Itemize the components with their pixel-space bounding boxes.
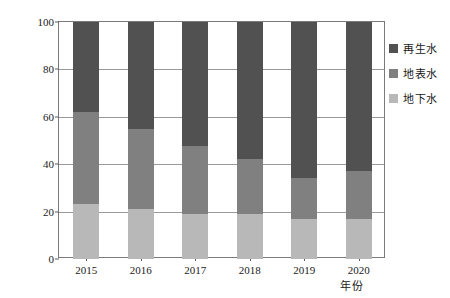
bar-series-container <box>59 22 384 257</box>
legend-item-地表水[interactable]: 地表水 <box>389 65 438 81</box>
bar-segment-再生水 <box>128 22 154 129</box>
legend-item-地下水[interactable]: 地下水 <box>389 90 438 106</box>
y-tick-label: 40 <box>43 158 54 170</box>
y-tick-label: 80 <box>43 63 54 75</box>
y-tick-label: 60 <box>43 111 54 123</box>
bar-segment-地表水 <box>73 112 99 204</box>
y-tick-label: 0 <box>49 253 55 265</box>
bar-segment-地表水 <box>237 159 263 214</box>
y-tick-label: 20 <box>43 206 54 218</box>
y-tick-label: 100 <box>38 16 55 28</box>
bar-segment-再生水 <box>73 22 99 112</box>
bar-stack-2020 <box>346 22 372 257</box>
bar-segment-地表水 <box>291 178 317 218</box>
bar-segment-地下水 <box>237 214 263 259</box>
bar-segment-地下水 <box>182 214 208 259</box>
legend-label: 地下水 <box>403 90 438 106</box>
bar-segment-地下水 <box>291 219 317 259</box>
bar-segment-地表水 <box>182 146 208 214</box>
y-tick-mark <box>55 259 59 260</box>
bar-stack-2015 <box>73 22 99 257</box>
x-tick-label-2020: 2020 <box>348 264 370 276</box>
legend-swatch-icon <box>389 94 398 103</box>
bar-segment-地下水 <box>73 204 99 259</box>
legend-label: 再生水 <box>403 40 438 56</box>
bar-segment-再生水 <box>291 22 317 178</box>
x-tick-label-2015: 2015 <box>75 264 97 276</box>
legend-item-再生水[interactable]: 再生水 <box>389 40 438 56</box>
legend-swatch-icon <box>389 44 398 53</box>
bar-segment-地表水 <box>128 129 154 210</box>
bar-stack-2017 <box>182 22 208 257</box>
bar-stack-2018 <box>237 22 263 257</box>
bar-stack-2019 <box>291 22 317 257</box>
x-tick-label-2018: 2018 <box>239 264 261 276</box>
legend-label: 地表水 <box>403 65 438 81</box>
x-tick-label-2019: 2019 <box>293 264 315 276</box>
bar-segment-再生水 <box>182 22 208 146</box>
x-tick-label-2017: 2017 <box>184 264 206 276</box>
bar-segment-地下水 <box>128 209 154 259</box>
legend-swatch-icon <box>389 69 398 78</box>
x-axis-title: 年份 <box>340 277 363 293</box>
bar-segment-再生水 <box>237 22 263 159</box>
chart-legend: 再生水地表水地下水 <box>389 40 438 106</box>
x-tick-label-2016: 2016 <box>130 264 152 276</box>
bar-segment-地表水 <box>346 171 372 218</box>
bar-stack-2016 <box>128 22 154 257</box>
bar-segment-地下水 <box>346 219 372 259</box>
plot-area: 020406080100 201520162017201820192020 <box>58 21 385 258</box>
chart-figure: 水量占比/% 020406080100 20152016201720182019… <box>0 0 450 298</box>
bar-segment-再生水 <box>346 22 372 171</box>
